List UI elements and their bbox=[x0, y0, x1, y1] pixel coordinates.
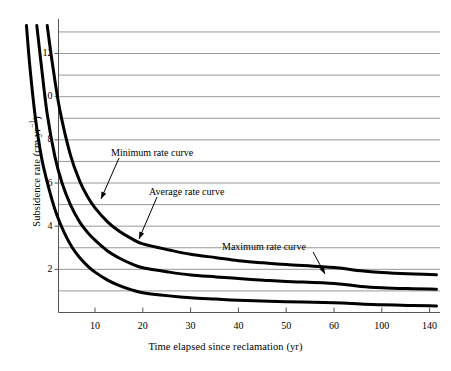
y-axis-title-main: Subsidence rate (cm yr bbox=[31, 128, 42, 227]
x-axis-ticks bbox=[95, 308, 430, 313]
plot-canvas bbox=[0, 0, 451, 371]
y-axis-title: Subsidence rate (cm yr−1) bbox=[31, 26, 42, 318]
curve-minimum-rate-curve bbox=[26, 25, 436, 306]
x-axis-tick-label: 100 bbox=[362, 320, 402, 331]
gridlines bbox=[59, 32, 441, 291]
x-axis-title: Time elapsed since reclamation (yr) bbox=[0, 341, 451, 352]
annotation-label: Average rate curve bbox=[149, 186, 224, 197]
y-axis-title-tail: ) bbox=[31, 116, 42, 120]
x-axis-tick-label: 20 bbox=[123, 320, 163, 331]
x-axis-tick-label: 40 bbox=[218, 320, 258, 331]
subsidence-rate-chart: 24681012 102030405060100140 Minimum rate… bbox=[0, 0, 451, 371]
annotation-label: Minimum rate curve bbox=[111, 147, 193, 158]
x-axis-tick-label: 50 bbox=[266, 320, 306, 331]
curve-maximum-rate-curve bbox=[47, 25, 436, 274]
annotation-arrowhead bbox=[101, 192, 106, 199]
annotation-label: Maximum rate curve bbox=[222, 241, 306, 252]
x-axis-tick-label: 10 bbox=[75, 320, 115, 331]
x-axis-tick-label: 30 bbox=[171, 320, 211, 331]
data-curves bbox=[26, 25, 436, 306]
y-axis-title-superscript: −1 bbox=[28, 120, 37, 128]
x-axis-tick-label: 60 bbox=[314, 320, 354, 331]
x-axis-tick-label: 140 bbox=[410, 320, 450, 331]
annotation-arrowhead bbox=[139, 232, 144, 239]
